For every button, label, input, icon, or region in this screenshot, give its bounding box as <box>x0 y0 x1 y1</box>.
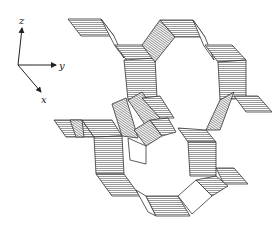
unit-bottom-left <box>96 174 140 196</box>
framework-structure <box>54 19 272 216</box>
x-axis-label: x <box>41 94 47 105</box>
unit-top-middle-link <box>193 20 214 60</box>
z-axis-label: z <box>18 15 25 26</box>
framework-diagram: z y x <box>0 0 279 228</box>
y-axis-label: y <box>58 60 65 71</box>
z-axis-arrow-icon <box>18 28 22 65</box>
unit-mid-right-top <box>234 96 272 112</box>
coordinate-axes: z y x <box>18 15 65 105</box>
unit-right-lower-front <box>188 142 216 176</box>
x-axis-arrow-icon <box>18 65 41 92</box>
unit-left-lower-front <box>94 136 124 174</box>
unit-right-upper-top <box>205 45 246 62</box>
